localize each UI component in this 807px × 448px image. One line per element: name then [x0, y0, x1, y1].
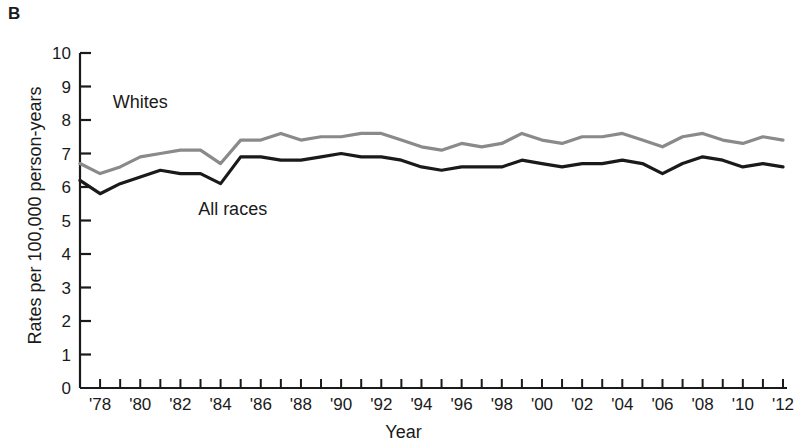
series-line-all-races [80, 154, 783, 194]
x-tick-label: '92 [370, 395, 392, 414]
x-tick-label: '02 [571, 395, 593, 414]
x-tick-label: '10 [732, 395, 754, 414]
y-tick-label: 0 [62, 379, 71, 398]
x-tick-label: '84 [210, 395, 232, 414]
x-tick-label: '78 [89, 395, 111, 414]
data-series-group [80, 133, 783, 193]
x-tick-label: '94 [410, 395, 432, 414]
line-chart: 012345678910 '78'80'82'84'86'88'90'92'94… [0, 0, 807, 448]
x-tick-label: '06 [651, 395, 673, 414]
x-tick-label: '88 [290, 395, 312, 414]
y-tick-label: 8 [62, 111, 71, 130]
series-label-all-races: All races [198, 199, 267, 219]
x-tick-label: '04 [611, 395, 633, 414]
y-tick-label: 7 [62, 145, 71, 164]
x-tick-label: '80 [129, 395, 151, 414]
x-tick-label: '98 [491, 395, 513, 414]
series-label-whites: Whites [113, 92, 168, 112]
y-tick-label: 6 [62, 178, 71, 197]
x-tick-label: '90 [330, 395, 352, 414]
x-tick-label: '12 [772, 395, 794, 414]
x-tick-label: '86 [250, 395, 272, 414]
y-tick-label: 2 [62, 312, 71, 331]
x-tick-label: '82 [169, 395, 191, 414]
y-tick-label: 4 [62, 245, 71, 264]
x-tick-label: '00 [531, 395, 553, 414]
x-tick-label: '08 [692, 395, 714, 414]
x-axis-title: Year [0, 422, 807, 443]
y-tick-label: 5 [62, 212, 71, 231]
y-axis: 012345678910 [52, 44, 91, 398]
y-tick-label: 3 [62, 279, 71, 298]
x-tick-label: '96 [451, 395, 473, 414]
y-tick-label: 10 [52, 44, 71, 63]
x-axis: '78'80'82'84'86'88'90'92'94'96'98'00'02'… [80, 379, 794, 414]
figure-panel-b: B Rates per 100,000 person-years 0123456… [0, 0, 807, 448]
y-tick-label: 9 [62, 78, 71, 97]
y-tick-label: 1 [62, 346, 71, 365]
